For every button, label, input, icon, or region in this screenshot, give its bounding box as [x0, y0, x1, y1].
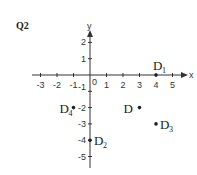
point-label-subscript: 1 — [162, 66, 166, 75]
y-tick-label: 2 — [81, 37, 86, 47]
x-tick-label: -3 — [36, 80, 44, 90]
y-tick-label: -5 — [78, 152, 86, 162]
point-label: D — [124, 101, 133, 116]
data-point — [154, 122, 158, 126]
coordinate-plane: xy-3-2-112345021-1-2-3-4-5D1D2D3D4D — [0, 0, 197, 175]
y-tick-label: -2 — [78, 103, 86, 113]
y-tick-label: -1 — [78, 82, 86, 92]
origin-label: 0 — [92, 77, 97, 87]
data-point — [154, 73, 158, 77]
x-tick-label: 1 — [104, 80, 109, 90]
x-tick-label: 5 — [170, 80, 175, 90]
point-label: D — [60, 101, 69, 116]
point-label-subscript: 3 — [169, 125, 173, 134]
x-tick-label: 3 — [137, 80, 142, 90]
x-tick-label: -2 — [53, 80, 61, 90]
data-point — [88, 138, 92, 142]
x-axis-label: x — [189, 70, 194, 80]
point-label: D — [160, 117, 169, 132]
y-tick-label: -4 — [78, 135, 86, 145]
point-label-subscript: 4 — [69, 109, 73, 118]
x-tick-label: 2 — [120, 80, 125, 90]
point-label: D — [153, 58, 162, 73]
x-axis-arrow-icon — [181, 72, 188, 78]
y-axis-label: y — [87, 21, 92, 31]
y-tick-label: -3 — [78, 119, 86, 129]
x-tick-label: 4 — [153, 80, 158, 90]
y-tick-label: 1 — [81, 54, 86, 64]
point-label-subscript: 2 — [103, 141, 107, 150]
x-tick-label: -1 — [69, 80, 77, 90]
y-axis-arrow-icon — [87, 30, 93, 37]
data-point — [138, 106, 142, 110]
point-label: D — [94, 133, 103, 148]
